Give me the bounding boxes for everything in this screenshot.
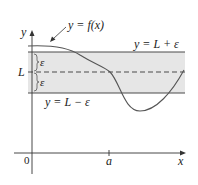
epsilon-limit-diagram: y = f(x) y = L + ε y = L − ε L ε ε 0 a x… [0, 0, 198, 185]
a-label: a [106, 154, 112, 168]
x-axis-label: x [177, 154, 184, 168]
limit-label: L [17, 65, 25, 79]
epsilon-label-top: ε [40, 56, 45, 68]
epsilon-band [28, 52, 185, 93]
curve-label: y = f(x) [67, 18, 104, 32]
upper-line-label: y = L + ε [133, 37, 179, 51]
lower-line-label: y = L − ε [44, 95, 90, 109]
epsilon-label-bottom: ε [40, 76, 45, 88]
y-axis-arrow-icon [30, 30, 35, 36]
y-axis-label: y [20, 25, 27, 39]
origin-label: 0 [24, 154, 30, 166]
curve-label-pointer [53, 27, 66, 39]
